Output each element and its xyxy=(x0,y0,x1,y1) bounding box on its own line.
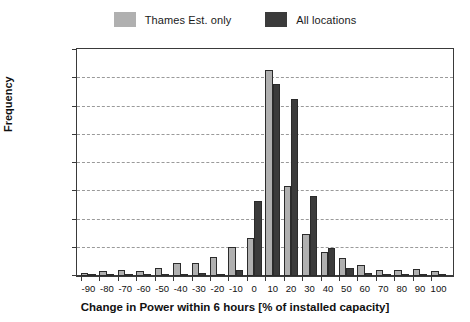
x-axis-tick-mark xyxy=(136,276,137,281)
bar xyxy=(181,274,188,276)
legend-label-all: All locations xyxy=(296,14,356,26)
bar xyxy=(173,263,180,276)
bar xyxy=(81,273,88,276)
bar xyxy=(162,274,169,276)
bar xyxy=(284,186,291,276)
bar xyxy=(321,252,328,276)
bar xyxy=(192,263,199,276)
x-axis-tick-mark xyxy=(394,276,395,281)
legend-label-thames: Thames Est. only xyxy=(145,14,232,26)
y-axis-tick-mark xyxy=(72,275,77,276)
x-axis-tick-mark xyxy=(357,276,358,281)
bar xyxy=(99,271,106,276)
legend-item-thames: Thames Est. only xyxy=(114,12,232,27)
x-axis-tick-mark xyxy=(192,276,193,281)
x-axis-tick-mark xyxy=(118,276,119,281)
y-axis-tick-mark xyxy=(72,219,77,220)
bar xyxy=(125,274,132,276)
bar xyxy=(357,265,364,276)
y-axis-tick-mark xyxy=(72,247,77,248)
bar xyxy=(394,270,401,276)
legend-swatch-dark-icon xyxy=(265,12,287,27)
bar xyxy=(88,274,95,276)
bar xyxy=(310,196,317,276)
bar xyxy=(376,270,383,276)
bar xyxy=(107,274,114,276)
chart-legend: Thames Est. only All locations xyxy=(0,12,470,27)
bar xyxy=(413,269,420,276)
plot-area: 0.0%5.0%10.0%15.0%20.0%25.0%30.0%35.0%40… xyxy=(76,48,454,277)
bar xyxy=(291,99,298,276)
legend-swatch-light-icon xyxy=(114,12,136,27)
x-axis-tick-mark xyxy=(81,276,82,281)
bar xyxy=(136,271,143,276)
x-axis-tick-mark xyxy=(247,276,248,281)
bar xyxy=(339,258,346,276)
x-axis-tick-label: 100 xyxy=(419,283,459,294)
bar xyxy=(247,238,254,276)
x-axis-tick-mark xyxy=(228,276,229,281)
bar xyxy=(365,273,372,276)
bar xyxy=(228,247,235,276)
x-axis-tick-mark xyxy=(302,276,303,281)
x-axis-tick-mark xyxy=(210,276,211,281)
bar xyxy=(118,270,125,276)
x-axis-tick-mark xyxy=(413,276,414,281)
x-axis-tick-mark xyxy=(376,276,377,281)
bar xyxy=(144,274,151,276)
x-axis-tick-mark xyxy=(339,276,340,281)
bar xyxy=(431,271,438,276)
x-axis-tick-mark xyxy=(284,276,285,281)
bar xyxy=(402,274,409,276)
bar xyxy=(420,274,427,276)
bar xyxy=(155,268,162,276)
x-axis-tick-mark xyxy=(265,276,266,281)
bar xyxy=(210,257,217,276)
x-axis-title: Change in Power within 6 hours [% of ins… xyxy=(0,301,470,313)
x-axis-tick-mark xyxy=(431,276,432,281)
y-axis-tick-mark xyxy=(72,77,77,78)
bar xyxy=(265,70,272,276)
y-axis-tick-mark xyxy=(72,162,77,163)
bar xyxy=(302,234,309,276)
bar-series-container xyxy=(77,49,453,276)
legend-item-all: All locations xyxy=(265,12,356,27)
bar xyxy=(199,273,206,276)
y-axis-tick-mark xyxy=(72,49,77,50)
y-axis-tick-mark xyxy=(72,106,77,107)
bar xyxy=(236,270,243,276)
bar xyxy=(346,268,353,276)
x-axis-tick-mark xyxy=(99,276,100,281)
x-axis-tick-mark xyxy=(173,276,174,281)
x-axis-tick-mark xyxy=(321,276,322,281)
bar xyxy=(328,248,335,276)
bar xyxy=(217,274,224,276)
y-axis-tick-mark xyxy=(72,190,77,191)
x-axis-tick-mark xyxy=(155,276,156,281)
bar xyxy=(383,274,390,276)
bar xyxy=(254,201,261,276)
chart-root: Thames Est. only All locations Frequency… xyxy=(0,0,470,322)
bar xyxy=(273,84,280,276)
y-axis-title: Frequency xyxy=(2,76,14,132)
y-axis-tick-mark xyxy=(72,134,77,135)
bar xyxy=(439,274,446,276)
